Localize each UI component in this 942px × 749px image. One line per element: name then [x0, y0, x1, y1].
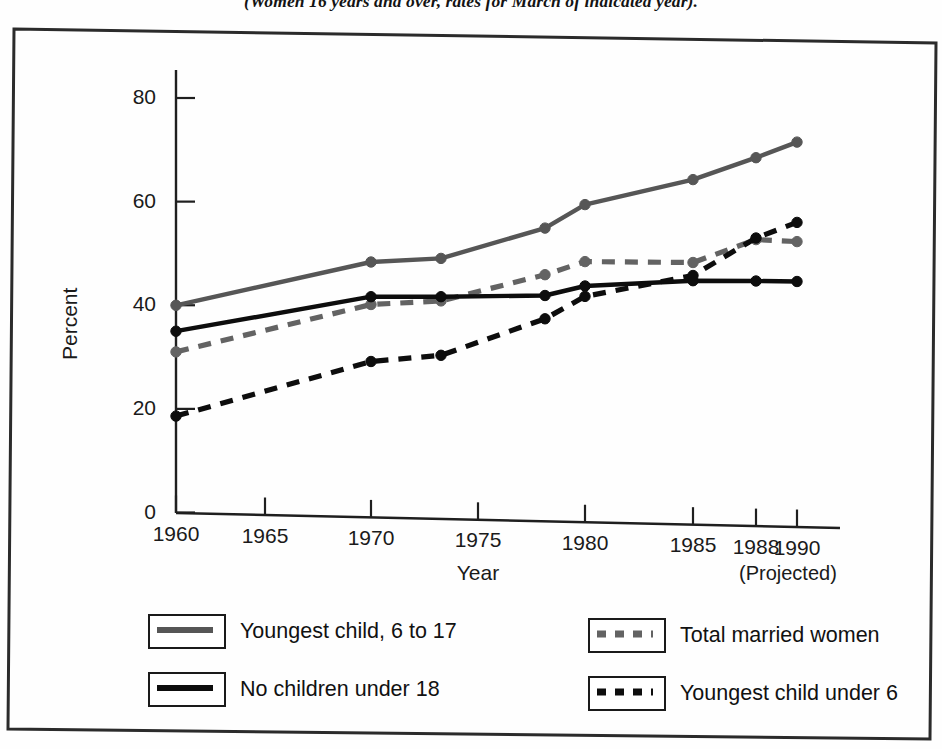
- y-axis-title: Percent: [58, 288, 82, 360]
- legend-label: Total married women: [680, 623, 880, 648]
- legend-dashed-line-icon: [588, 618, 666, 653]
- chart-series-group: [171, 137, 802, 421]
- x-tick-label: 1975: [433, 528, 523, 552]
- legend-entry[interactable]: Total married women: [588, 618, 880, 653]
- legend-entry[interactable]: Youngest child, 6 to 17: [148, 614, 457, 649]
- x-tick-label: 1965: [220, 524, 310, 548]
- x-tick-label: 1980: [540, 531, 630, 555]
- legend-label: Youngest child under 6: [680, 681, 898, 706]
- x-tick-label: 1960: [131, 522, 221, 546]
- x-tick-label: 1990: [752, 536, 842, 560]
- chart-series: [171, 217, 802, 421]
- x-axis-ticks: [176, 496, 797, 527]
- chart-axes: [176, 70, 840, 528]
- projected-annotation: (Projected): [739, 562, 837, 585]
- legend-dashed-line-icon: [588, 676, 666, 711]
- y-tick-label: 80: [96, 85, 156, 109]
- x-tick-label: 1970: [326, 526, 416, 550]
- legend-solid-line-icon: [148, 614, 226, 649]
- legend-label: Youngest child, 6 to 17: [240, 619, 457, 644]
- legend-solid-line-icon: [148, 672, 226, 707]
- legend-entry[interactable]: Youngest child under 6: [588, 676, 898, 711]
- chart-series: [171, 137, 802, 311]
- legend-entry[interactable]: No children under 18: [148, 672, 440, 707]
- y-tick-label: 0: [96, 500, 156, 524]
- chart-legend: Youngest child, 6 to 17Total married wom…: [148, 614, 848, 724]
- legend-label: No children under 18: [240, 677, 440, 702]
- y-tick-label: 60: [96, 189, 156, 213]
- y-tick-label: 40: [96, 292, 156, 316]
- x-axis-title: Year: [418, 561, 538, 585]
- figure-page: (Women 16 years and over, rates for Marc…: [0, 0, 942, 749]
- y-tick-label: 20: [96, 396, 156, 420]
